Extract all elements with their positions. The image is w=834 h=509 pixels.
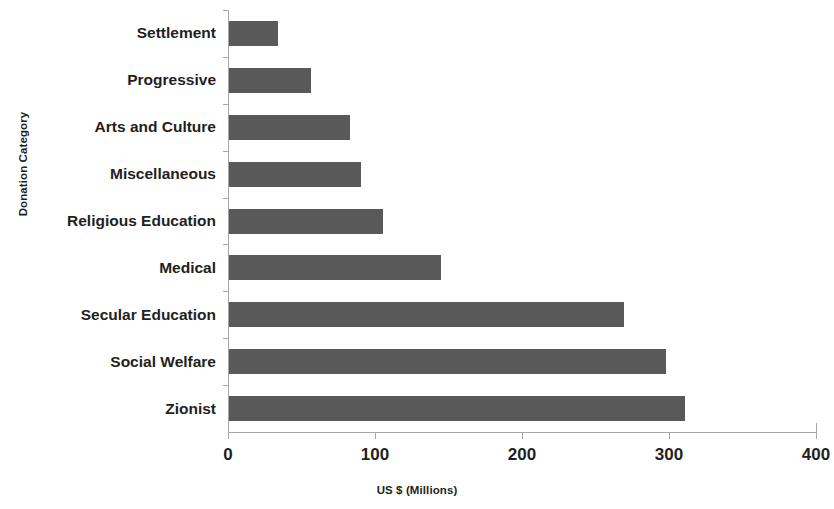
x-axis-title: US $ (Millions) <box>0 484 834 496</box>
y-axis-tick <box>223 151 228 152</box>
y-axis-tick <box>223 244 228 245</box>
x-axis-tick <box>228 432 229 439</box>
plot-area <box>228 10 816 432</box>
x-axis-tick-label: 100 <box>335 445 415 465</box>
category-label: Settlement <box>20 25 216 41</box>
category-label: Secular Education <box>20 307 216 323</box>
x-axis-tick <box>669 432 670 439</box>
category-label: Arts and Culture <box>20 119 216 135</box>
category-label: Miscellaneous <box>20 166 216 182</box>
category-label: Medical <box>20 260 216 276</box>
x-axis-tick-label: 300 <box>629 445 709 465</box>
bar <box>229 115 350 140</box>
category-label: Progressive <box>20 72 216 88</box>
category-label: Religious Education <box>20 213 216 229</box>
y-axis-tick <box>223 338 228 339</box>
y-axis-tick <box>223 57 228 58</box>
x-axis-tick-label: 400 <box>776 445 834 465</box>
y-axis-tick <box>223 104 228 105</box>
category-label: Zionist <box>20 401 216 417</box>
bar-chart: Donation Category SettlementProgressiveA… <box>0 0 834 509</box>
bar <box>229 255 441 280</box>
bar <box>229 68 311 93</box>
bar <box>229 209 383 234</box>
y-axis-tick <box>223 291 228 292</box>
bar <box>229 396 685 421</box>
y-axis-tick <box>223 385 228 386</box>
x-axis-tick <box>375 432 376 439</box>
x-axis-tick-label: 200 <box>482 445 562 465</box>
x-axis-tick-label: 0 <box>188 445 268 465</box>
x-axis-tick <box>816 432 817 439</box>
bar <box>229 302 624 327</box>
category-axis-labels: SettlementProgressiveArts and CultureMis… <box>20 10 216 432</box>
bar <box>229 162 361 187</box>
category-label: Social Welfare <box>20 354 216 370</box>
bar <box>229 349 666 374</box>
y-axis-tick <box>223 198 228 199</box>
y-axis-top-cap <box>223 10 228 11</box>
bar <box>229 21 278 46</box>
x-axis-tick <box>522 432 523 439</box>
